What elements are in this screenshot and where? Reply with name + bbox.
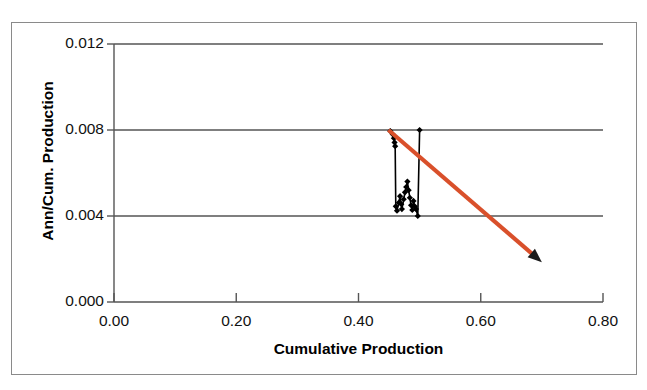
- y-tick-label: 0.012: [42, 34, 104, 52]
- chart-figure: 0.0000.0040.0080.012 0.000.200.400.600.8…: [0, 0, 647, 390]
- x-tick-marks-group: [114, 293, 603, 302]
- axis-lines-group: [114, 44, 603, 302]
- data-point-marker: [417, 127, 423, 133]
- data-point-marker: [399, 206, 405, 212]
- x-tick-label: 0.80: [568, 312, 638, 330]
- x-tick-label: 0.40: [324, 312, 394, 330]
- y-tick-label: 0.000: [42, 292, 104, 310]
- trend-arrow-shaft: [388, 130, 533, 255]
- gridlines-group: [114, 44, 603, 216]
- data-point-marker: [415, 213, 421, 219]
- annotations-group: [388, 130, 541, 262]
- chart-plot-svg: [0, 0, 647, 390]
- data-series-group: [387, 127, 423, 219]
- x-tick-label: 0.00: [79, 312, 149, 330]
- y-tick-marks-group: [107, 44, 114, 302]
- x-axis-title: Cumulative Production: [114, 340, 603, 358]
- data-point-marker: [404, 179, 410, 185]
- y-axis-title: Ann/Cum. Production: [39, 51, 57, 271]
- x-tick-label: 0.20: [201, 312, 271, 330]
- x-tick-label: 0.60: [446, 312, 516, 330]
